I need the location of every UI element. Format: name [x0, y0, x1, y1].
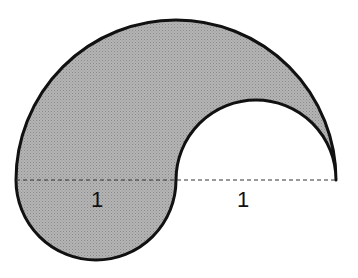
shaded-region: [16, 20, 336, 260]
right-radius-label: 1: [237, 187, 249, 212]
left-radius-label: 1: [91, 187, 103, 212]
diagram: 1 1: [0, 0, 358, 278]
